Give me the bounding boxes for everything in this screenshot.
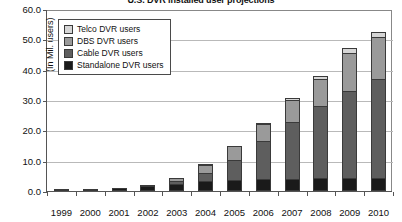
legend-item[interactable]: Standalone DVR users xyxy=(64,59,163,71)
x-tick-mark xyxy=(364,192,365,196)
y-tick-label: 30.0 xyxy=(3,95,41,106)
y-tick-mark xyxy=(43,131,47,132)
bar-stack[interactable] xyxy=(371,32,386,191)
x-tick-label: 2003 xyxy=(162,207,191,218)
x-tick-mark xyxy=(76,192,77,196)
bar-stack[interactable] xyxy=(227,146,242,191)
bar-stack[interactable] xyxy=(169,178,184,191)
x-tick-label: 2009 xyxy=(335,207,364,218)
x-tick-label: 2010 xyxy=(364,207,393,218)
y-tick-label: 0.0 xyxy=(3,186,41,197)
y-tick-mark xyxy=(43,40,47,41)
x-tick-mark xyxy=(220,192,221,196)
y-axis-label: (In Mil. users) xyxy=(45,17,55,72)
bar-segment xyxy=(342,91,357,179)
x-tick-label: 1999 xyxy=(47,207,76,218)
bar-segment xyxy=(371,79,386,179)
bar-segment xyxy=(342,53,357,92)
legend-item[interactable]: DBS DVR users xyxy=(64,35,163,47)
y-tick-mark xyxy=(43,10,47,11)
bar-stack[interactable] xyxy=(112,188,127,191)
x-tick-label: 2000 xyxy=(76,207,105,218)
y-tick-mark xyxy=(43,162,47,163)
x-tick-label: 2005 xyxy=(220,207,249,218)
gridline xyxy=(47,101,393,102)
chart-container: U.S. DVR installed user projections (In … xyxy=(0,0,402,222)
x-tick-mark xyxy=(307,192,308,196)
x-tick-mark xyxy=(162,192,163,196)
x-tick-mark xyxy=(105,192,106,196)
bar-segment xyxy=(285,122,300,180)
bar-stack[interactable] xyxy=(54,189,69,191)
bar-segment xyxy=(169,184,184,191)
y-tick-label: 10.0 xyxy=(3,156,41,167)
x-tick-mark xyxy=(393,192,394,196)
x-tick-mark xyxy=(278,192,279,196)
bar-stack[interactable] xyxy=(83,189,98,191)
y-tick-label: 20.0 xyxy=(3,125,41,136)
bar-segment xyxy=(256,141,271,180)
y-tick-mark xyxy=(43,101,47,102)
bar-segment xyxy=(313,178,328,191)
bar-stack[interactable] xyxy=(342,48,357,191)
x-tick-label: 2001 xyxy=(105,207,134,218)
bar-segment xyxy=(112,188,127,191)
x-tick-mark xyxy=(249,192,250,196)
x-tick-mark xyxy=(335,192,336,196)
bar-segment xyxy=(54,189,69,191)
bar-stack[interactable] xyxy=(285,98,300,191)
y-tick-label: 40.0 xyxy=(3,65,41,76)
legend-label: Telco DVR users xyxy=(77,24,140,34)
x-tick-mark xyxy=(134,192,135,196)
bar-segment xyxy=(83,189,98,191)
bar-stack[interactable] xyxy=(198,164,213,191)
legend-item[interactable]: Telco DVR users xyxy=(64,23,163,35)
bar-segment xyxy=(256,124,271,142)
bar-segment xyxy=(140,186,155,191)
x-tick-label: 2002 xyxy=(134,207,163,218)
gridline xyxy=(47,131,393,132)
y-tick-mark xyxy=(43,71,47,72)
bar-stack[interactable] xyxy=(256,123,271,191)
bar-segment xyxy=(313,79,328,108)
x-tick-label: 2007 xyxy=(278,207,307,218)
x-tick-mark xyxy=(47,192,48,196)
legend-swatch-icon xyxy=(64,25,73,34)
bar-segment xyxy=(227,160,242,181)
bar-segment xyxy=(371,178,386,191)
y-tick-label: 60.0 xyxy=(3,4,41,15)
gridline xyxy=(47,162,393,163)
chart-legend: Telco DVR usersDBS DVR usersCable DVR us… xyxy=(58,19,171,75)
x-tick-label: 2008 xyxy=(307,207,336,218)
bar-segment xyxy=(342,178,357,191)
bar-segment xyxy=(313,106,328,179)
legend-item[interactable]: Cable DVR users xyxy=(64,47,163,59)
bar-segment xyxy=(227,146,242,161)
bar-stack[interactable] xyxy=(313,76,328,191)
legend-label: DBS DVR users xyxy=(77,36,138,46)
legend-label: Standalone DVR users xyxy=(77,60,163,70)
x-tick-label: 2006 xyxy=(249,207,278,218)
legend-label: Cable DVR users xyxy=(77,48,143,58)
bar-segment xyxy=(227,180,242,191)
bar-segment xyxy=(371,37,386,79)
bar-segment xyxy=(285,100,300,123)
bar-segment xyxy=(256,179,271,191)
bar-segment xyxy=(285,179,300,191)
chart-title: U.S. DVR installed user projections xyxy=(0,0,402,5)
bar-stack[interactable] xyxy=(140,185,155,191)
x-tick-label: 2004 xyxy=(191,207,220,218)
legend-swatch-icon xyxy=(64,49,73,58)
bar-segment xyxy=(198,181,213,191)
x-tick-mark xyxy=(191,192,192,196)
legend-swatch-icon xyxy=(64,37,73,46)
y-tick-label: 50.0 xyxy=(3,34,41,45)
legend-swatch-icon xyxy=(64,61,73,70)
